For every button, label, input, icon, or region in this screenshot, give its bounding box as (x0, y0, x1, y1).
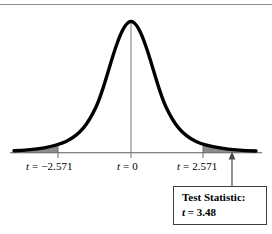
callout-value: t = 3.48 (182, 206, 216, 218)
test-statistic-callout-box: Test Statistic: t = 3.48 (173, 186, 267, 225)
axis-label-negative-critical: t = −2.571 (26, 160, 73, 172)
callout-title: Test Statistic: (182, 191, 245, 203)
axis-label-center: t = 0 (117, 160, 138, 172)
t-distribution-figure: t = −2.571 t = 0 t = 2.571 Test Statisti… (0, 0, 272, 234)
axis-label-positive-critical: t = 2.571 (177, 160, 217, 172)
t-distribution-curve (14, 22, 256, 152)
